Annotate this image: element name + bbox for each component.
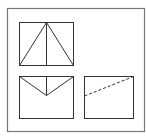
front-view-edge-visible	[20, 23, 47, 66]
side-view	[85, 77, 134, 119]
front-view-edge-visible	[47, 23, 74, 66]
views-group	[20, 23, 134, 119]
top-view-edge-visible	[20, 77, 47, 96]
three-view-diagram	[0, 0, 146, 137]
top-view	[20, 77, 74, 119]
top-view-edge-visible	[47, 77, 74, 96]
front-view	[20, 23, 74, 66]
side-view-outline	[85, 77, 134, 119]
outer-frame	[8, 9, 145, 132]
side-view-edge-hidden	[85, 77, 134, 97]
